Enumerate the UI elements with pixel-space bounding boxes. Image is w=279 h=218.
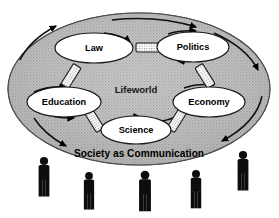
society-as-communication-diagram: Law Politics Education Economy Science L… [0, 0, 279, 218]
node-economy[interactable]: Economy [173, 87, 245, 117]
node-education-label: Education [42, 97, 87, 107]
node-economy-label: Economy [188, 97, 230, 107]
connector-law-politics [136, 43, 160, 52]
node-education[interactable]: Education [27, 87, 101, 117]
lifeworld-label: Lifeworld [115, 84, 158, 95]
node-politics-label: Politics [177, 42, 210, 52]
diagram-canvas: Law Politics Education Economy Science L… [0, 0, 279, 218]
society-as-communication-label: Society as Communication [74, 148, 204, 159]
node-law-label: Law [85, 43, 104, 53]
node-law[interactable]: Law [55, 33, 133, 63]
node-science[interactable]: Science [101, 116, 171, 144]
node-science-label: Science [119, 125, 154, 135]
node-politics[interactable]: Politics [157, 32, 229, 62]
